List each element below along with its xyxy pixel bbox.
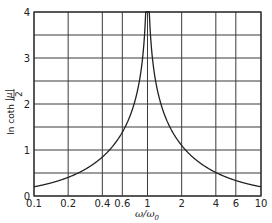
y-tick-label: 1 (24, 145, 30, 156)
svg-text:2: 2 (14, 91, 24, 97)
svg-text:ln coth: ln coth (6, 104, 16, 135)
x-tick-label: 0.2 (60, 198, 76, 209)
y-axis-label: ln coth |μ| 2 (4, 89, 24, 135)
x-tick-label: 0.6 (114, 198, 130, 209)
y-tick-label: 3 (24, 53, 30, 64)
svg-text:|μ|: |μ| (4, 89, 14, 101)
x-tick-label: 6 (233, 198, 239, 209)
x-tick-label: 2 (178, 198, 184, 209)
y-tick-label: 0 (24, 191, 30, 202)
x-tick-label: 0.4 (94, 198, 110, 209)
x-tick-label: 10 (255, 198, 268, 209)
grid-lines (34, 12, 261, 196)
y-tick-label: 4 (24, 7, 30, 18)
x-axis-label: ω/ω0 (135, 208, 160, 222)
y-tick-label: 2 (24, 99, 30, 110)
y-tick-labels: 01234 (24, 7, 30, 202)
x-tick-label: 4 (213, 198, 219, 209)
chart: 0.10.20.40.6124610 01234 ω/ω0 ln coth |μ… (0, 0, 272, 223)
